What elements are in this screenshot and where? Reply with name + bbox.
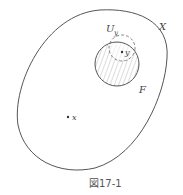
closed-set-f-label: F: [138, 84, 147, 95]
neighborhood-overlap: [110, 36, 134, 60]
point-y-label: y: [124, 48, 130, 57]
space-x-label: X: [158, 21, 167, 32]
figure-caption: 図17-1: [89, 178, 122, 189]
point-y-dot: [121, 51, 123, 53]
point-x-dot: [67, 116, 69, 118]
point-x-label: x: [72, 113, 77, 122]
diagram-figure: y x U y X F 図17-1: [0, 0, 183, 195]
